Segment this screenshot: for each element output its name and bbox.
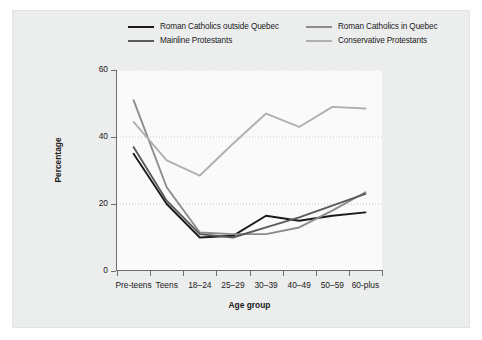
chart-legend: Roman Catholics outside Quebec Roman Cat… — [128, 20, 458, 48]
y-tick-label: 20 — [68, 198, 108, 208]
y-tick-label: 40 — [68, 131, 108, 141]
y-tick-label: 60 — [68, 64, 108, 74]
y-tick-mark — [111, 70, 116, 71]
x-tick-mark — [183, 271, 184, 276]
plot-area — [117, 70, 382, 271]
plot-lines — [117, 70, 382, 271]
legend-item-mainline-protestants: Mainline Protestants — [128, 37, 306, 45]
series-line — [134, 100, 366, 234]
x-tick-mark — [250, 271, 251, 276]
chart-figure: Roman Catholics outside Quebec Roman Cat… — [0, 0, 482, 340]
legend-row-1: Roman Catholics outside Quebec Roman Cat… — [128, 20, 458, 34]
legend-swatch-mainline-protestants — [128, 40, 154, 42]
x-tick-label: 18–24 — [188, 280, 211, 290]
y-tick-label-group: 0204060 — [62, 0, 108, 340]
y-tick-mark — [111, 271, 116, 272]
legend-label-roman-catholics-outside-quebec: Roman Catholics outside Quebec — [160, 23, 279, 31]
x-tick-label: 50–59 — [321, 280, 344, 290]
legend-label-conservative-protestants: Conservative Protestants — [338, 37, 427, 45]
series-line — [134, 154, 366, 238]
legend-swatch-conservative-protestants — [306, 40, 332, 42]
legend-item-roman-catholics-outside-quebec: Roman Catholics outside Quebec — [128, 23, 306, 31]
x-tick-mark — [382, 271, 383, 276]
legend-swatch-roman-catholics-in-quebec — [306, 26, 332, 28]
legend-label-mainline-protestants: Mainline Protestants — [160, 37, 232, 45]
x-tick-label: 25–29 — [221, 280, 244, 290]
x-tick-label: 60-plus — [352, 280, 379, 290]
x-tick-mark — [283, 271, 284, 276]
x-tick-mark — [150, 271, 151, 276]
x-axis-title: Age group — [117, 300, 382, 310]
legend-row-2: Mainline Protestants Conservative Protes… — [128, 34, 458, 48]
y-tick-mark — [111, 204, 116, 205]
y-tick-mark — [111, 137, 116, 138]
y-axis — [116, 70, 117, 271]
y-axis-title: Percentage — [53, 100, 63, 220]
x-tick-label: 30–39 — [254, 280, 277, 290]
x-tick-label: Pre-teens — [115, 280, 151, 290]
x-tick-label: 40–49 — [288, 280, 311, 290]
legend-swatch-roman-catholics-outside-quebec — [128, 26, 154, 28]
x-tick-mark — [316, 271, 317, 276]
x-tick-mark — [216, 271, 217, 276]
x-tick-mark — [349, 271, 350, 276]
legend-item-conservative-protestants: Conservative Protestants — [306, 37, 456, 45]
x-tick-mark — [117, 271, 118, 276]
legend-item-roman-catholics-in-quebec: Roman Catholics in Quebec — [306, 23, 456, 31]
y-tick-label: 0 — [68, 265, 108, 275]
legend-label-roman-catholics-in-quebec: Roman Catholics in Quebec — [338, 23, 437, 31]
x-tick-label: Teens — [156, 280, 178, 290]
series-line — [134, 107, 366, 176]
